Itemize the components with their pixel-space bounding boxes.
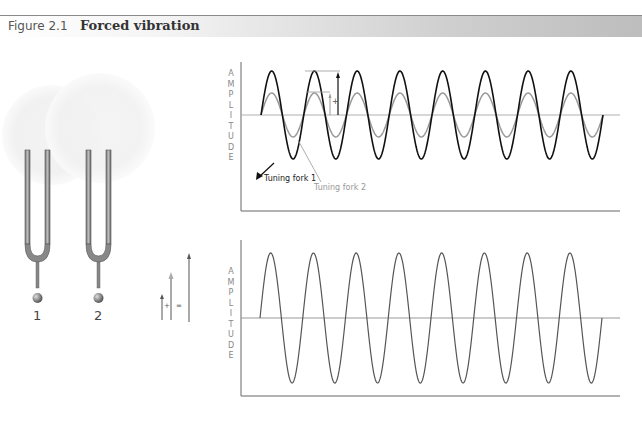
bottom-y-axis-label: AMPLITUDE	[226, 267, 236, 362]
diagram-canvas	[0, 0, 642, 429]
fork-2-label: 2	[94, 308, 102, 323]
top-chart	[241, 62, 620, 211]
fork-1-label: 1	[33, 308, 41, 323]
legend-tuning-fork-1: Tuning fork 1	[264, 174, 316, 183]
vector-equals: =	[176, 302, 182, 310]
legend-tuning-fork-2: Tuning fork 2	[314, 183, 366, 192]
top-y-axis-label: AMPLITUDE	[226, 69, 236, 164]
amplitude-plus-symbol: +	[332, 97, 339, 106]
vector-sum-arrows	[160, 253, 191, 322]
vector-plus: +	[164, 302, 170, 310]
bottom-chart	[241, 240, 620, 396]
